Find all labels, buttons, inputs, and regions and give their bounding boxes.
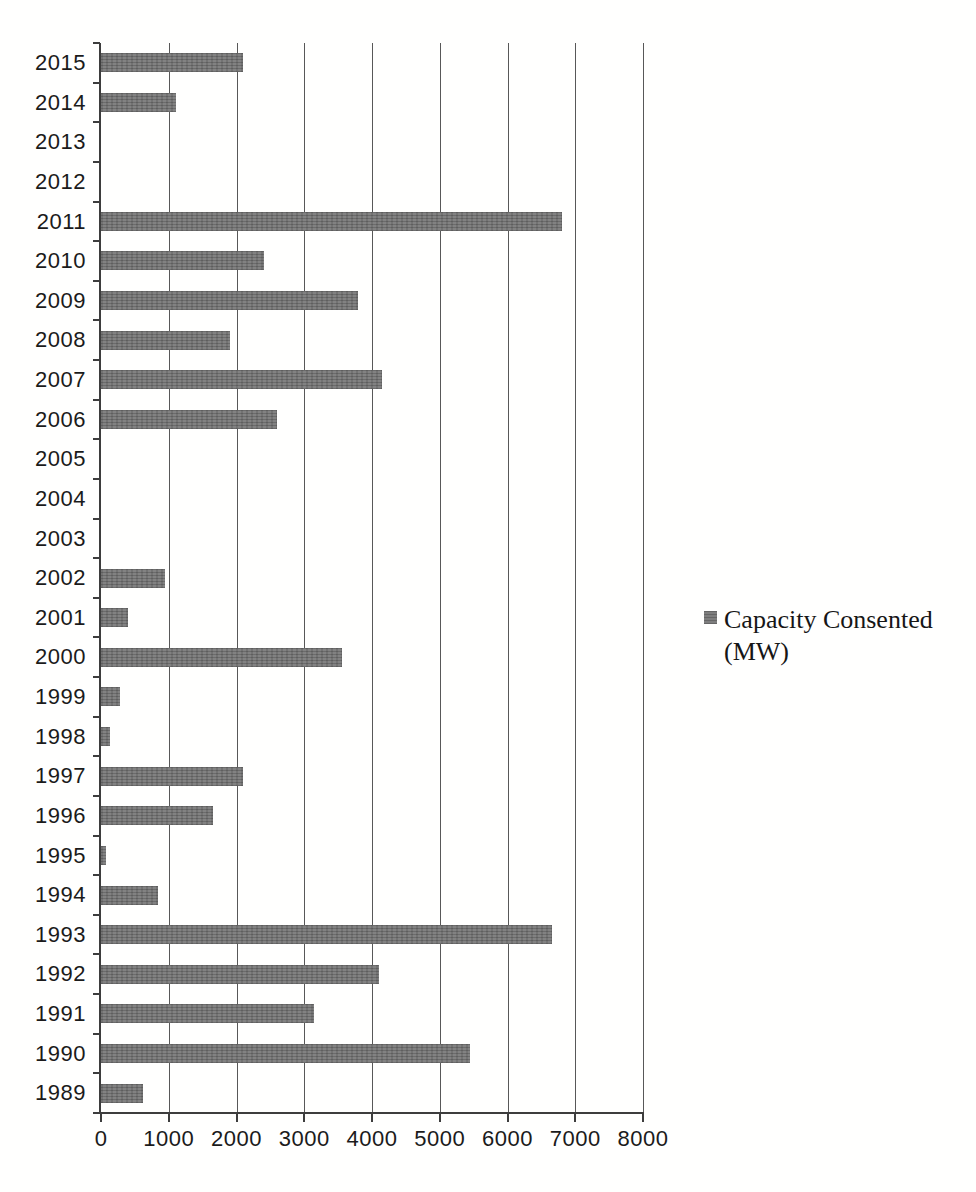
gridline xyxy=(575,43,576,1113)
year-label-1994: 1994 xyxy=(20,875,86,915)
bar-1996 xyxy=(101,806,213,825)
y-axis-tick xyxy=(93,716,100,718)
y-axis-tick xyxy=(93,1033,100,1035)
year-label-2006: 2006 xyxy=(20,400,86,440)
bar-1989 xyxy=(101,1084,143,1103)
y-axis-tick xyxy=(93,399,100,401)
year-label-2000: 2000 xyxy=(20,637,86,677)
year-label-2001: 2001 xyxy=(20,598,86,638)
year-label-2008: 2008 xyxy=(20,320,86,360)
y-axis-tick xyxy=(93,835,100,837)
bar-2014 xyxy=(101,93,176,112)
year-label-2012: 2012 xyxy=(20,162,86,202)
bar-1998 xyxy=(101,727,110,746)
y-axis-tick xyxy=(93,1112,100,1114)
x-axis-tick xyxy=(303,1114,305,1122)
bar-2009 xyxy=(101,291,358,310)
x-tick-label-8000: 8000 xyxy=(598,1126,688,1152)
year-label-1995: 1995 xyxy=(20,836,86,876)
x-axis-tick xyxy=(168,1114,170,1122)
y-axis-tick xyxy=(93,82,100,84)
x-axis-tick xyxy=(100,1114,102,1122)
bar-1992 xyxy=(101,965,379,984)
y-axis-tick xyxy=(93,240,100,242)
bar-1990 xyxy=(101,1044,470,1063)
y-axis-tick xyxy=(93,319,100,321)
year-label-1993: 1993 xyxy=(20,915,86,955)
bar-2001 xyxy=(101,608,128,627)
x-axis-tick xyxy=(507,1114,509,1122)
year-label-1999: 1999 xyxy=(20,677,86,717)
y-axis-tick xyxy=(93,518,100,520)
x-axis-tick xyxy=(642,1114,644,1122)
gridline xyxy=(508,43,509,1113)
y-axis-tick xyxy=(93,953,100,955)
y-axis-tick xyxy=(93,557,100,559)
year-label-1992: 1992 xyxy=(20,954,86,994)
legend-label-line2: (MW) xyxy=(724,636,933,668)
gridline xyxy=(304,43,305,1113)
bar-1991 xyxy=(101,1004,314,1023)
bar-1994 xyxy=(101,886,158,905)
year-label-2005: 2005 xyxy=(20,439,86,479)
bar-2007 xyxy=(101,370,382,389)
bar-2008 xyxy=(101,331,230,350)
bar-2010 xyxy=(101,251,264,270)
year-label-1990: 1990 xyxy=(20,1034,86,1074)
y-axis-tick xyxy=(93,795,100,797)
y-axis-tick xyxy=(93,121,100,123)
bar-2006 xyxy=(101,410,277,429)
legend: Capacity Consented (MW) xyxy=(704,604,933,668)
x-axis-tick xyxy=(439,1114,441,1122)
y-axis-tick xyxy=(93,874,100,876)
scanned-chart-page: 2015201420132012201120102009200820072006… xyxy=(0,0,976,1192)
year-label-1996: 1996 xyxy=(20,796,86,836)
y-axis-tick xyxy=(93,1072,100,1074)
capacity-consented-bar-chart: 2015201420132012201120102009200820072006… xyxy=(0,0,976,1192)
x-axis-tick xyxy=(236,1114,238,1122)
year-label-2004: 2004 xyxy=(20,479,86,519)
gridline xyxy=(169,43,170,1113)
gridline xyxy=(237,43,238,1113)
year-label-2013: 2013 xyxy=(20,122,86,162)
year-label-1997: 1997 xyxy=(20,756,86,796)
bar-1993 xyxy=(101,925,552,944)
bar-2011 xyxy=(101,212,562,231)
y-axis-tick xyxy=(93,755,100,757)
bar-2015 xyxy=(101,53,243,72)
y-axis-tick xyxy=(93,359,100,361)
y-axis-tick xyxy=(93,201,100,203)
bar-1999 xyxy=(101,687,120,706)
bar-1997 xyxy=(101,767,243,786)
year-label-1989: 1989 xyxy=(20,1073,86,1113)
year-label-2007: 2007 xyxy=(20,360,86,400)
gridline xyxy=(372,43,373,1113)
bar-2002 xyxy=(101,569,165,588)
year-label-1991: 1991 xyxy=(20,994,86,1034)
x-axis-tick xyxy=(574,1114,576,1122)
year-label-2009: 2009 xyxy=(20,281,86,321)
year-label-2002: 2002 xyxy=(20,558,86,598)
y-axis-tick xyxy=(93,42,100,44)
year-label-2015: 2015 xyxy=(20,43,86,83)
year-label-1998: 1998 xyxy=(20,717,86,757)
bar-2000 xyxy=(101,648,342,667)
year-label-2010: 2010 xyxy=(20,241,86,281)
year-label-2014: 2014 xyxy=(20,83,86,123)
y-axis-tick xyxy=(93,280,100,282)
legend-label: Capacity Consented (MW) xyxy=(724,604,933,668)
bar-1995 xyxy=(101,846,106,865)
y-axis-tick xyxy=(93,636,100,638)
x-axis-tick xyxy=(371,1114,373,1122)
gridline xyxy=(643,43,644,1113)
y-axis-tick xyxy=(93,478,100,480)
legend-series-marker-icon xyxy=(704,611,717,624)
year-label-2011: 2011 xyxy=(20,202,86,242)
legend-label-line1: Capacity Consented xyxy=(724,604,933,636)
y-axis-tick xyxy=(93,438,100,440)
y-axis-tick xyxy=(93,161,100,163)
y-axis-tick xyxy=(93,914,100,916)
gridline xyxy=(440,43,441,1113)
y-axis-tick xyxy=(93,993,100,995)
year-label-2003: 2003 xyxy=(20,519,86,559)
